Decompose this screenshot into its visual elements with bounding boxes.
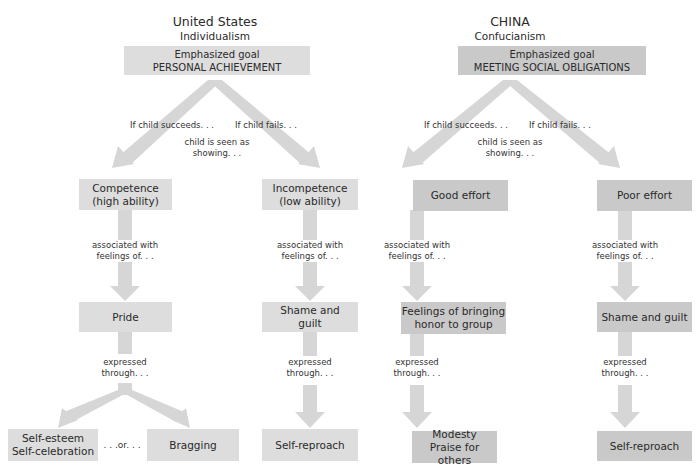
us-selfesteem-box: Self-esteem Self-celebration	[8, 429, 98, 461]
us-pride-box: Pride	[79, 302, 172, 332]
us-branch-fail: If child fails. . .	[226, 120, 306, 131]
us-title: United States	[140, 14, 290, 29]
us-arrow-to-selfreproach	[295, 412, 325, 428]
cn-honor-box: Feelings of bringing honor to group	[401, 302, 506, 334]
us-assoc-right: associated with feelings of. . .	[270, 240, 350, 262]
cn-shame-box: Shame and guilt	[597, 302, 692, 332]
cn-expr-right: expressed through. . .	[595, 357, 655, 379]
cn-goal-label: Emphasized goal	[509, 48, 594, 61]
us-assoc-left: associated with feelings of. . .	[85, 240, 165, 262]
us-shame-box: Shame and guilt	[262, 302, 358, 332]
cn-poor-effort-box: Poor effort	[597, 180, 692, 211]
us-goal-label: Emphasized goal	[174, 48, 259, 61]
us-goal-box: Emphasized goal PERSONAL ACHIEVEMENT	[124, 46, 310, 75]
us-subtitle: Individualism	[140, 29, 290, 44]
cn-branch-fail: If child fails. . .	[520, 120, 600, 131]
cn-goal-box: Emphasized goal MEETING SOCIAL OBLIGATIO…	[458, 46, 646, 75]
cn-assoc-right: associated with feelings of. . .	[585, 240, 665, 262]
cn-assoc-left: associated with feelings of. . .	[377, 240, 457, 262]
us-or-label: . . .or. . .	[100, 440, 144, 451]
cn-good-effort-box: Good effort	[413, 180, 508, 211]
us-heading: United States Individualism	[140, 14, 290, 44]
us-expr-right: expressed through. . .	[280, 357, 340, 379]
cn-modesty-box: Modesty Praise for others	[412, 431, 497, 463]
cn-branch-success: If child succeeds. . .	[416, 120, 516, 131]
us-goal-value: PERSONAL ACHIEVEMENT	[153, 61, 282, 74]
us-competence-box: Competence (high ability)	[79, 179, 172, 210]
us-branch-success: If child succeeds. . .	[122, 120, 222, 131]
us-expr-left: expressed through. . .	[95, 357, 155, 379]
us-bragging-box: Bragging	[147, 429, 239, 461]
us-seen-as: child is seen as showing. . .	[172, 137, 262, 159]
cn-goal-value: MEETING SOCIAL OBLIGATIONS	[474, 61, 630, 74]
cn-title: CHINA	[435, 14, 585, 29]
cn-selfreproach-box: Self-reproach	[597, 431, 692, 461]
cn-subtitle: Confucianism	[435, 29, 585, 44]
cn-heading: CHINA Confucianism	[435, 14, 585, 44]
cn-expr-left: expressed through. . .	[387, 357, 447, 379]
cn-seen-as: child is seen as showing. . .	[465, 137, 555, 159]
us-incompetence-box: Incompetence (low ability)	[262, 179, 358, 210]
us-selfreproach-box: Self-reproach	[262, 429, 358, 461]
us-arrow-to-pride	[110, 286, 140, 301]
